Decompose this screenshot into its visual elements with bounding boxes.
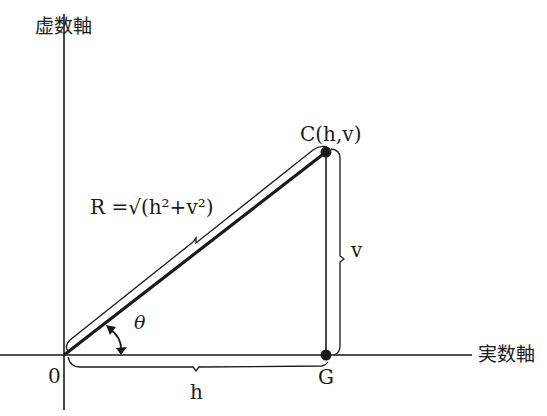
vector-r xyxy=(64,152,326,355)
length-v-label: v xyxy=(351,240,362,260)
diagram-canvas xyxy=(0,0,547,416)
real-axis-label: 実数軸 xyxy=(478,345,535,364)
point-c xyxy=(321,147,332,158)
arc-arrow-bottom-icon xyxy=(116,347,127,355)
point-c-label: C(h,v) xyxy=(300,124,361,144)
point-g xyxy=(321,350,332,361)
angle-theta-label: θ xyxy=(134,313,145,332)
imaginary-axis-label: 虚数軸 xyxy=(35,15,55,37)
length-h-label: h xyxy=(190,382,203,402)
magnitude-formula: R =√(h²+v²) xyxy=(90,197,214,217)
origin-label: 0 xyxy=(48,366,61,386)
brace-v xyxy=(331,149,344,355)
point-g-label: G xyxy=(318,367,334,387)
brace-r xyxy=(66,146,327,351)
brace-h xyxy=(68,357,328,371)
